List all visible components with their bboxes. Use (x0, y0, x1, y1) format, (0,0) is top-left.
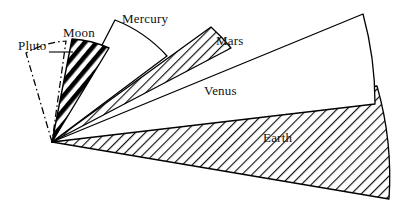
label-venus: Venus (204, 84, 237, 97)
label-moon: Moon (63, 26, 95, 39)
label-mars: Mars (216, 34, 244, 47)
label-pluto: Pluto (18, 39, 46, 52)
diagram-canvas: Pluto Moon Mercury Mars Venus Earth (0, 0, 402, 224)
label-earth: Earth (263, 131, 292, 144)
wedge-fan-figure (0, 0, 402, 224)
label-mercury: Mercury (122, 12, 168, 25)
